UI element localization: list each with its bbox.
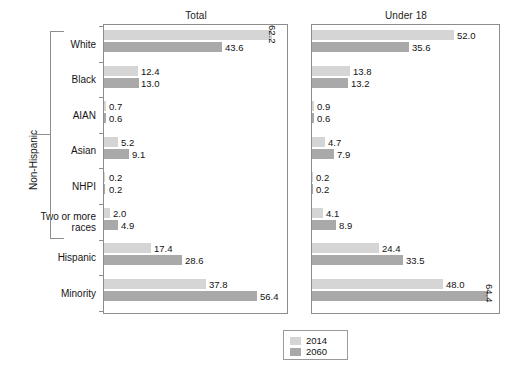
bar-under18-2014-white — [312, 30, 454, 40]
bar-under18-2060-black — [312, 78, 348, 88]
bar-value-under18-2060-asian: 7.9 — [337, 150, 350, 160]
bar-value-total-2014-nhpi: 0.2 — [109, 173, 122, 183]
bar-under18-2060-white — [312, 42, 409, 52]
bar-value-total-2060-minority: 56.4 — [260, 292, 279, 302]
bar-total-2014-hispanic — [104, 243, 151, 253]
bar-value-under18-2060-two-or-more-races: 8.9 — [339, 221, 352, 231]
legend-swatch-2060-icon — [290, 348, 301, 356]
legend-label-2014: 2014 — [306, 335, 327, 346]
axis-tick — [99, 133, 104, 134]
category-label-hispanic: Hispanic — [22, 252, 96, 263]
bar-value-total-2060-nhpi: 0.2 — [109, 185, 122, 195]
bar-total-2014-two-or-more-races — [104, 208, 110, 218]
bar-value-total-2060-asian: 9.1 — [132, 150, 145, 160]
bar-total-2060-black — [104, 78, 139, 88]
bar-total-2014-aian — [104, 101, 106, 111]
bar-under18-2014-asian — [312, 137, 325, 147]
axis-tick — [99, 275, 104, 276]
bar-value-total-2014-aian: 0.7 — [109, 102, 122, 112]
bar-total-2014-black — [104, 66, 138, 76]
chart-legend: 2014 2060 — [283, 330, 348, 360]
bar-value-under18-2060-hispanic: 33.5 — [406, 256, 425, 266]
bar-under18-2014-two-or-more-races — [312, 208, 323, 218]
legend-item-2060: 2060 — [290, 346, 340, 357]
bar-value-total-2060-white: 43.6 — [225, 43, 244, 53]
legend-label-2060: 2060 — [306, 346, 327, 357]
group-label-non-hispanic: Non-Hispanic — [28, 130, 39, 190]
bar-total-2060-nhpi — [104, 184, 105, 194]
bar-value-total-2060-hispanic: 28.6 — [185, 256, 204, 266]
bar-under18-2060-minority — [312, 291, 488, 301]
category-label-white: White — [22, 39, 96, 50]
bar-total-2014-nhpi — [104, 172, 105, 182]
bar-value-total-2014-two-or-more-races: 2.0 — [113, 209, 126, 219]
bar-value-under18-2014-asian: 4.7 — [328, 138, 341, 148]
axis-tick — [99, 240, 104, 241]
bar-value-total-2014-minority: 37.8 — [209, 280, 228, 290]
bar-under18-2060-aian — [312, 113, 314, 123]
bar-value-under18-2014-nhpi: 0.2 — [316, 173, 329, 183]
category-label-minority: Minority — [22, 288, 96, 299]
panel-title-total: Total — [104, 10, 288, 21]
axis-tick — [99, 204, 104, 205]
bar-value-under18-2014-two-or-more-races: 4.1 — [326, 209, 339, 219]
bar-value-total-2060-aian: 0.6 — [109, 114, 122, 124]
bar-value-under18-2060-minority: 64.4 — [484, 284, 494, 303]
group-bracket-top — [50, 31, 64, 32]
bar-total-2060-two-or-more-races — [104, 220, 118, 230]
bar-value-total-2014-asian: 5.2 — [121, 138, 134, 148]
bar-total-2060-minority — [104, 291, 257, 301]
bar-under18-2060-asian — [312, 149, 334, 159]
bar-total-2014-minority — [104, 279, 206, 289]
bar-value-under18-2014-hispanic: 24.4 — [382, 244, 401, 254]
group-bracket-vertical — [50, 31, 51, 238]
axis-tick — [99, 97, 104, 98]
bar-value-total-2014-hispanic: 17.4 — [154, 244, 173, 254]
bar-value-under18-2060-white: 35.6 — [412, 43, 431, 53]
bar-under18-2014-nhpi — [312, 172, 313, 182]
axis-tick — [99, 311, 104, 312]
bar-value-under18-2014-black: 13.8 — [353, 67, 372, 77]
axis-tick — [99, 26, 104, 27]
bar-total-2060-aian — [104, 113, 106, 123]
legend-item-2014: 2014 — [290, 335, 340, 346]
legend-swatch-2014-icon — [290, 337, 301, 345]
bar-value-under18-2014-minority: 48.0 — [446, 280, 465, 290]
group-bracket-bottom — [50, 238, 64, 239]
chart-root: Total Under 18 White Black AIAN Asian NH… — [0, 0, 518, 369]
bar-value-total-2060-two-or-more-races: 4.9 — [121, 221, 134, 231]
bar-value-total-2060-black: 13.0 — [141, 79, 160, 89]
bar-total-2060-hispanic — [104, 255, 182, 265]
bar-value-under18-2060-black: 13.2 — [351, 79, 370, 89]
bar-under18-2060-two-or-more-races — [312, 220, 336, 230]
bar-value-total-2014-white: 62.2 — [267, 25, 277, 44]
axis-tick — [99, 62, 104, 63]
bar-under18-2014-hispanic — [312, 243, 379, 253]
bar-total-2060-asian — [104, 149, 129, 159]
panel-title-under18: Under 18 — [312, 10, 500, 21]
bar-under18-2014-black — [312, 66, 350, 76]
bar-total-2014-asian — [104, 137, 118, 147]
bar-total-2014-white — [104, 30, 272, 40]
bar-value-under18-2014-white: 52.0 — [457, 31, 476, 41]
bar-under18-2014-minority — [312, 279, 443, 289]
bar-under18-2060-hispanic — [312, 255, 403, 265]
bar-total-2060-white — [104, 42, 222, 52]
axis-tick — [99, 168, 104, 169]
bar-value-under18-2014-aian: 0.9 — [317, 102, 330, 112]
bar-under18-2060-nhpi — [312, 184, 313, 194]
category-label-aian: AIAN — [22, 110, 96, 121]
bar-value-total-2014-black: 12.4 — [141, 67, 160, 77]
category-label-black: Black — [22, 74, 96, 85]
bar-value-under18-2060-aian: 0.6 — [317, 114, 330, 124]
bar-under18-2014-aian — [312, 101, 314, 111]
bar-value-under18-2060-nhpi: 0.2 — [316, 185, 329, 195]
category-label-two-or-more-races: Two or more races — [26, 211, 96, 233]
